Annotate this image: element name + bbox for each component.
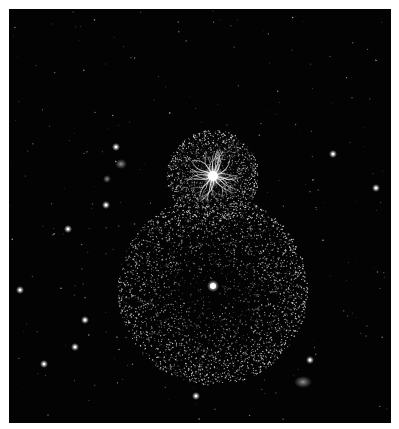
small-filament-sphere xyxy=(167,130,259,223)
large-dotted-sphere xyxy=(118,195,309,385)
space-illustration xyxy=(9,9,391,423)
starfield-image xyxy=(9,9,391,423)
